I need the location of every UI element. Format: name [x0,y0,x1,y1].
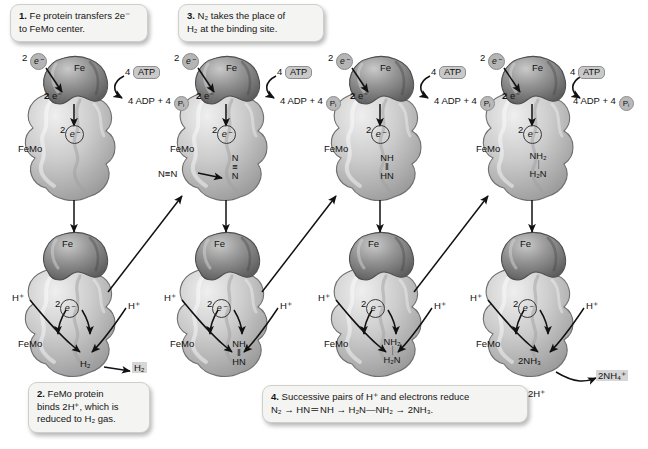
callout-1-line2: to FeMo center. [19,23,85,34]
fe-electron-count-1: 2 [44,90,49,101]
electron-bubble-2: e⁻ [182,53,199,70]
atp-count-4: 4 [570,66,575,77]
femo-center-electrons-3: 2e⁻ [366,124,390,144]
electron-bubble-3: e⁻ [336,53,353,70]
callout-2-number: 2. [37,388,45,399]
substrate-bottom-3: HN [370,172,404,181]
femo-electron-bubble-b1: e⁻ [60,299,79,318]
substrate-bottom-2: N [222,172,248,181]
femo-label-1: FeMo [18,143,42,154]
adp-group-1: 4 ADP + 4 Pi [128,95,189,111]
femo-electron-bubble-b2: e⁻ [212,299,231,318]
proton-right-label-1: H⁺ [128,300,140,311]
femo-label-2: FeMo [170,143,194,154]
electron-bubble-4: e⁻ [488,53,505,70]
substrate-bottom-4: H₂N [518,170,558,179]
femo-center-electrons-4: 2e⁻ [518,124,542,144]
pi-bubble-1: Pi [174,96,189,111]
proton-left-label-1: H⁺ [12,292,24,303]
femo-label-3: FeMo [324,143,348,154]
fe-center-electrons-2: 2 e⁻ [196,90,214,101]
adp-text-1: 4 ADP + 4 [128,95,171,106]
fe-label-b4: Fe [520,238,531,249]
femo-label-b4: FeMo [476,338,500,349]
product-bottom-3: H₂N [372,356,412,365]
femo-electron-bubble-3: e⁻ [371,125,390,144]
atp-count-2: 4 [277,66,282,77]
callout-1-line1: Fe protein transfers 2e⁻ [27,10,130,21]
femo-label-4: FeMo [476,143,500,154]
atp-box-2: ATP [285,66,312,79]
bound-substrate-2: N ≡ N [222,154,248,180]
callout-step-1: 1. Fe protein transfers 2e⁻ to FeMo cent… [10,4,148,42]
atp-group-3: 4 ATP [431,66,466,79]
electron-count-3: 2 [328,52,333,63]
femo-electrons-b1: 2e⁻ [55,298,79,318]
callout-step-2: 2. FeMo protein binds 2H⁺, which is redu… [28,382,150,433]
callout-4-line1: Successive pairs of H⁺ and electrons red… [279,391,469,402]
atp-hydrolysis-arrow-2 [267,76,276,98]
incoming-electrons-1: 2 e⁻ [22,52,47,70]
femo-electrons-b4: 2e⁻ [513,298,537,318]
fe-label-2: Fe [226,62,237,73]
femo-electron-bubble-b4: e⁻ [518,299,537,318]
callout-step-3: 3. N₂ takes the place of H₂ at the bindi… [178,4,324,42]
proton-left-label-3: H⁺ [318,292,330,303]
callout-3-line1: N₂ takes the place of [195,10,285,21]
fe-label-b2: Fe [214,238,225,249]
electron-count-4: 2 [480,52,485,63]
fe-label-3: Fe [380,62,391,73]
h2-release-arrow [104,367,130,371]
proton-right-label-3: H⁺ [434,300,446,311]
cycle-diagonal-arrow-2 [262,196,336,292]
callout-4-number: 4. [271,391,279,402]
fe-label-1: Fe [74,62,85,73]
bound-product-4: 2NH₃ [518,355,541,366]
figure-canvas: 1. Fe protein transfers 2e⁻ to FeMo cent… [0,0,648,449]
femo-electrons-b3: 2e⁻ [361,298,385,318]
incoming-electrons-3: 2 e⁻ [328,52,353,70]
callout-2-line1: FeMo protein [45,388,104,399]
nh4-release-arrow [556,372,596,381]
electron-bubble-1: e⁻ [30,53,47,70]
proton-left-label-2: H⁺ [164,292,176,303]
fe-center-electrons-4: 2 e⁻ [502,90,520,101]
adp-text-2: 4 ADP + 4 [280,95,323,106]
callout-3-number: 3. [187,10,195,21]
proton-right-label-4: H⁺ [586,300,598,311]
fe-electron-glyph-3: e⁻ [358,90,368,101]
atp-count-3: 4 [431,66,436,77]
bound-product-1: H₂ [80,358,91,369]
atp-group-4: 4 ATP [570,66,605,79]
femo-electron-bubble-4: e⁻ [523,125,542,144]
fe-electron-count-3: 2 [350,90,355,101]
cycle-diagonal-arrow-1 [108,196,182,292]
pi-bubble-4: Pi [619,96,634,111]
electron-count-2: 2 [174,52,179,63]
atp-hydrolysis-arrow-3 [421,76,430,98]
proton-left-label-4: H⁺ [470,292,482,303]
femo-label-b3: FeMo [324,338,348,349]
released-product-1: H₂ [132,362,147,373]
pi-bubble-3: Pi [480,96,495,111]
femo-center-electrons-2: 2e⁻ [212,124,236,144]
adp-text-3: 4 ADP + 4 [434,95,477,106]
fe-center-electrons-1: 2 e⁻ [44,90,62,101]
adp-group-3: 4 ADP + 4 Pi [434,95,495,111]
proton-right-label-2: H⁺ [280,300,292,311]
fe-label-b3: Fe [368,238,379,249]
fe-center-electrons-3: 2 e⁻ [350,90,368,101]
bound-product-2: NH ‖ HN [222,340,256,366]
femo-center-electrons-1: 2e⁻ [60,124,84,144]
callout-step-4: 4. Successive pairs of H⁺ and electrons … [262,385,528,423]
callout-3-line2: H₂ at the binding site. [187,23,277,34]
adp-group-2: 4 ADP + 4 Pi [280,95,341,111]
fe-electron-count-2: 2 [196,90,201,101]
femo-label-b2: FeMo [170,338,194,349]
bound-substrate-3: NH ‖ HN [370,154,404,180]
free-n2-label: N≡N [158,168,177,179]
femo-label-b1: FeMo [18,338,42,349]
electron-count-1: 2 [22,52,27,63]
callout-2-line2: binds 2H⁺, which is [37,401,119,412]
fe-electron-count-4: 2 [502,90,507,101]
